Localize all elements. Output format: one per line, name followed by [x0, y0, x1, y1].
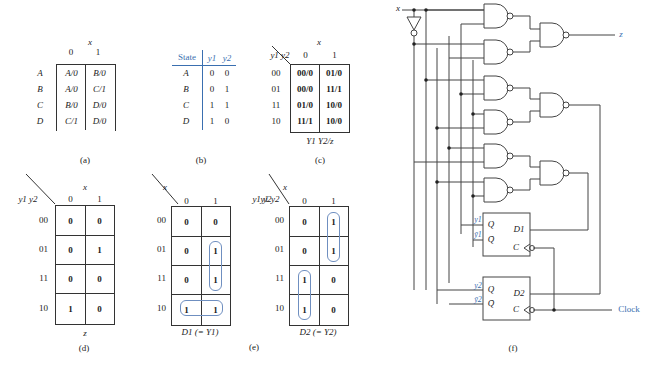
nand-gates-level1 [484, 4, 513, 202]
circuit-schematic [0, 0, 655, 367]
nand-gates-level2 [540, 23, 569, 185]
ff2-c-pin: C [511, 304, 521, 314]
ff2-y-label: y2 [472, 281, 484, 290]
ff1-c-pin: C [511, 242, 521, 252]
ff1-qbar-pin: Q̄ [486, 234, 496, 244]
caption-f: (f) [493, 343, 533, 353]
ff1-q-pin: Q [486, 219, 496, 229]
ff2-q-pin: Q [486, 284, 496, 294]
ff1-d-pin: D1 [512, 224, 526, 234]
ff2-qbar-pin: Q̄ [486, 298, 496, 308]
ff1-y-label: y1 [472, 215, 484, 224]
output-z-label: z [615, 29, 627, 39]
ff2-ybar-label: ȳ2 [472, 295, 484, 304]
clock-label: Clock [614, 304, 644, 314]
ff1-ybar-label: ȳ1 [472, 230, 484, 239]
ff2-d-pin: D2 [512, 288, 526, 298]
input-x-label: x [392, 3, 404, 13]
